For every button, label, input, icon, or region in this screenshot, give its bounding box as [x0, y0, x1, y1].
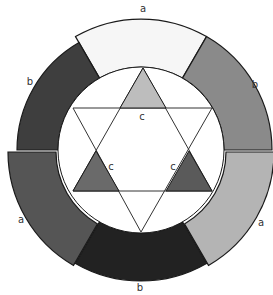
label-segment-bottom-left: a: [18, 214, 24, 225]
label-triangle-top: c: [139, 111, 145, 122]
color-wheel-diagram: a b a b a b c c c: [0, 0, 273, 295]
label-segment-bottom-right: a: [258, 217, 264, 228]
label-segment-top-right: b: [252, 79, 258, 90]
label-segment-top: a: [140, 3, 146, 14]
label-triangle-left: c: [108, 161, 114, 172]
label-segment-bottom: b: [137, 282, 143, 293]
label-segment-top-left: b: [27, 76, 33, 87]
label-triangle-right: c: [170, 161, 176, 172]
